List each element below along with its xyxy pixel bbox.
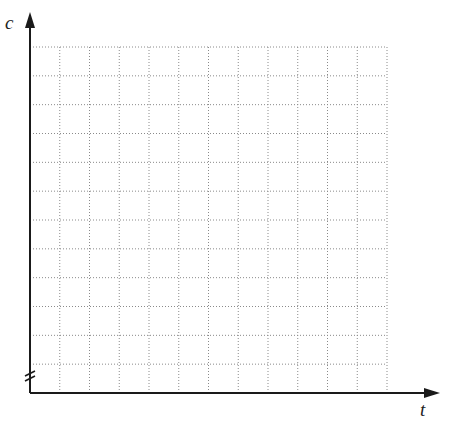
x-axis-label: t [420, 399, 426, 420]
grid-lines [30, 47, 387, 393]
blank-graph: c t [0, 0, 452, 444]
x-axis-arrow-icon [424, 388, 440, 398]
y-axis-arrow-icon [25, 12, 35, 28]
y-axis-label: c [5, 12, 14, 33]
